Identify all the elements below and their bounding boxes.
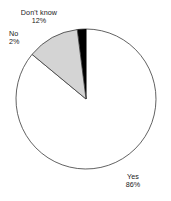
pie-chart: Don't know 12% No 2% Yes 86% [0, 0, 171, 201]
pie-label-yes: Yes 86% [120, 173, 146, 189]
pie-label-dont-know-value: 12% [18, 17, 60, 25]
pie-label-dont-know: Don't know 12% [18, 9, 60, 25]
pie-label-no: No 2% [9, 30, 20, 46]
pie-chart-graphic [0, 0, 171, 201]
pie-label-no-value: 2% [9, 38, 20, 46]
pie-label-yes-value: 86% [120, 181, 146, 189]
